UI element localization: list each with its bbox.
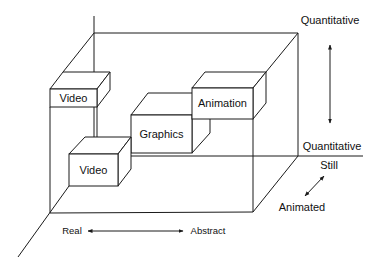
diagonal-arrow-icon xyxy=(305,176,324,196)
top-left-depth-edge xyxy=(63,33,94,72)
video-lower-label: Video xyxy=(80,164,108,176)
video-upper-label: Video xyxy=(60,92,88,104)
label-abstract: Abstract xyxy=(191,225,226,236)
depth-axis-line xyxy=(18,186,69,257)
label-real: Real xyxy=(62,225,82,236)
label-quantitative-top: Quantitative xyxy=(301,14,360,26)
box-video-lower: Video xyxy=(69,137,131,186)
graphics-label: Graphics xyxy=(139,128,184,140)
box-animation: Animation xyxy=(192,72,266,119)
media-space-diagram: Graphics Animation Video Video Quantitat… xyxy=(0,0,382,267)
label-still: Still xyxy=(320,159,338,171)
animation-label: Animation xyxy=(198,97,247,109)
box-video-upper: Video xyxy=(50,72,110,107)
front-bottom-edge xyxy=(50,212,253,213)
label-quantitative-bottom: Quantitative xyxy=(303,140,362,152)
label-animated: Animated xyxy=(279,201,325,213)
top-right-depth-edge xyxy=(266,33,298,72)
